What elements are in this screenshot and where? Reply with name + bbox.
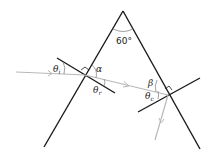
prism-right-edge (123, 11, 200, 149)
alpha-label: α (96, 64, 102, 74)
right-angle-marker-1 (81, 67, 89, 70)
theta-c-arc (158, 91, 159, 99)
apex-angle-arc (113, 29, 133, 32)
beta-arc (155, 80, 157, 92)
apex-angle-label: 60° (116, 36, 132, 46)
theta-c-label: θc (145, 91, 154, 102)
theta-r-arc (104, 79, 105, 86)
prism-diagram: 60° θi α θr β θc (0, 0, 211, 155)
beta-label: β (147, 78, 153, 88)
theta-i-label: θi (53, 64, 60, 75)
theta-r-label: θr (93, 85, 102, 96)
theta-i-arc (63, 62, 65, 74)
prism-left-edge (44, 11, 123, 147)
